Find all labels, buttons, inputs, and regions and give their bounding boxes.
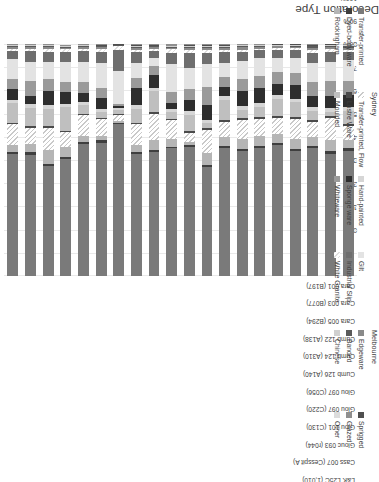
bar-row	[237, 44, 248, 276]
bar-segment	[254, 76, 265, 89]
bar-segment	[60, 159, 71, 276]
bar-row	[7, 44, 18, 276]
bar-segment	[113, 50, 124, 71]
bar-row	[25, 44, 36, 276]
bar-segment	[25, 144, 36, 152]
bar-segment	[166, 112, 177, 119]
bar-segment	[254, 119, 265, 136]
legend-swatch-icon	[347, 412, 353, 418]
bar-segment	[184, 89, 195, 99]
bar-segment	[237, 52, 248, 61]
bar-segment	[184, 53, 195, 68]
bar-segment	[25, 128, 36, 144]
legend-label: Dyed-body ware	[346, 17, 354, 67]
chart-figure: Decoration Type 0%10%20%30%40%50%60%70%8…	[0, 0, 379, 482]
legend-swatch-icon	[335, 8, 341, 14]
bar-segment	[96, 143, 107, 276]
legend-group-title	[370, 412, 379, 482]
bar-segment	[254, 88, 265, 103]
bar-segment	[25, 62, 36, 82]
bar-segment	[254, 50, 265, 58]
bar-segment	[131, 63, 142, 78]
bar-segment	[43, 109, 54, 126]
bar-segment	[78, 82, 89, 92]
legend-item[interactable]: Sprigged	[356, 412, 367, 482]
bar-segment	[272, 50, 283, 58]
bar-row	[43, 44, 54, 276]
bar-segment	[202, 153, 213, 165]
bar-row	[131, 44, 142, 276]
bar-segment	[272, 58, 283, 72]
bar-segment	[60, 62, 71, 82]
bar-row	[96, 44, 107, 276]
bar-segment	[149, 91, 160, 112]
bar-segment	[254, 58, 265, 75]
bar-segment	[237, 151, 248, 276]
legend-label: Lustre Ware	[346, 101, 354, 138]
legend-swatch-icon	[347, 176, 353, 182]
bar-segment	[78, 51, 89, 61]
bar-segment	[184, 100, 195, 112]
bar-segment	[131, 78, 142, 88]
bar-segment	[166, 92, 177, 102]
bar-segment	[272, 99, 283, 116]
legend-swatch-icon	[347, 8, 353, 14]
bar-segment	[219, 87, 230, 96]
bar-segment	[237, 91, 248, 106]
bar-row	[202, 44, 213, 276]
bar-segment	[7, 103, 18, 123]
legend-label: Moulded	[334, 101, 342, 127]
bar-segment	[7, 51, 18, 59]
legend-label: Glazed	[346, 421, 354, 443]
bar-segment	[78, 115, 89, 136]
bar-segment	[202, 130, 213, 153]
bar-segment	[131, 88, 142, 105]
legend-column: SpriggedGlazedOther	[331, 412, 379, 482]
legend-label: Transfer-printed, Flow	[358, 101, 366, 167]
bar-segment	[7, 145, 18, 152]
legend-swatch-icon	[347, 330, 353, 336]
bar-segment	[43, 128, 54, 150]
bar-segment	[60, 92, 71, 104]
bar-segment	[166, 120, 177, 139]
bar-segment	[272, 72, 283, 84]
legend-swatch-icon	[335, 92, 341, 98]
bar-row	[272, 44, 283, 276]
bar-segment	[131, 52, 142, 62]
bar-segment	[60, 107, 71, 130]
bar-segment	[78, 62, 89, 83]
bar-segment	[166, 53, 177, 65]
bar-segment	[43, 91, 54, 106]
bar-segment	[96, 52, 107, 64]
bar-segment	[272, 145, 283, 276]
bar-segment	[149, 66, 160, 75]
bar-segment	[78, 144, 89, 276]
legend-swatch-icon	[359, 92, 365, 98]
legend-swatch-icon	[359, 412, 365, 418]
bar-segment	[60, 147, 71, 156]
legend-item[interactable]: Glazed	[344, 412, 355, 482]
bar-segment	[96, 119, 107, 135]
bar-segment	[113, 71, 124, 105]
bar-segment	[60, 82, 71, 92]
legend-swatch-icon	[335, 252, 341, 258]
legend-item[interactable]: Other	[332, 412, 343, 482]
bar-segment	[149, 51, 160, 58]
bar-row	[184, 44, 195, 276]
bar-segment	[184, 115, 195, 131]
legend-label: Whiteware	[334, 185, 342, 217]
bar-segment	[7, 79, 18, 89]
bar-segment	[272, 84, 283, 96]
bar-segment	[149, 152, 160, 276]
legend-swatch-icon	[359, 252, 365, 258]
bar-segment	[7, 154, 18, 276]
bar-segment	[237, 61, 248, 78]
bar-segment	[43, 150, 54, 164]
legend-label: Edgeware	[358, 339, 366, 370]
legend-label: Industrial Slip	[346, 261, 354, 302]
bar-segment	[7, 89, 18, 99]
bar-segment	[131, 145, 142, 152]
bar-segment	[237, 79, 248, 92]
bar-segment	[166, 139, 177, 147]
bar-segment	[184, 133, 195, 142]
